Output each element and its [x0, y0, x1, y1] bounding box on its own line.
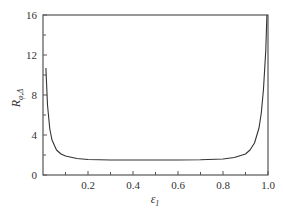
x-tick-label: 0.2 — [81, 179, 95, 191]
x-tick-label: 0.8 — [216, 179, 230, 191]
line-chart: 0.20.40.60.81.00481216 ε1 Rφ,Δ — [0, 0, 283, 215]
axis-ticks: 0.20.40.60.81.00481216 — [26, 9, 275, 191]
data-series — [46, 15, 267, 160]
x-tick-label: 1.0 — [261, 179, 275, 191]
y-tick-label: 16 — [26, 9, 38, 21]
y-tick-label: 8 — [32, 89, 38, 101]
plot-border — [43, 15, 268, 175]
series-line — [46, 15, 267, 160]
x-tick-label: 0.6 — [171, 179, 185, 191]
y-tick-label: 0 — [32, 169, 38, 181]
y-axis-label: Rφ,Δ — [9, 88, 25, 108]
y-tick-label: 12 — [26, 49, 37, 61]
plot-frame — [43, 15, 268, 175]
y-tick-label: 4 — [32, 129, 38, 141]
x-tick-label: 0.4 — [126, 179, 140, 191]
x-axis-label: ε1 — [151, 192, 160, 208]
